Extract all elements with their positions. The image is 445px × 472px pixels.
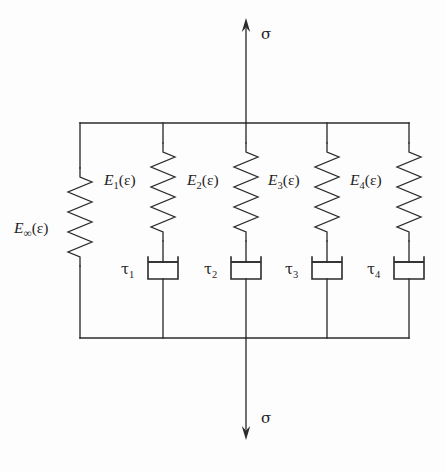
- branch-1-tau-subscript: 1: [129, 269, 134, 280]
- branch-1-strain-argument: (ε): [119, 171, 136, 189]
- modulus-base-symbol: E: [13, 219, 24, 236]
- branch-2-modulus-label: E2(ε): [186, 171, 219, 191]
- modulus-base-symbol: E: [267, 171, 278, 188]
- modulus-base-symbol: E: [349, 171, 360, 188]
- branch-infinity-spring: [68, 168, 92, 266]
- branch-infinity-modulus-subscript: ∞: [23, 227, 31, 239]
- modulus-base-symbol: E: [186, 171, 197, 188]
- branch-infinity-modulus-label: E∞(ε): [13, 219, 49, 239]
- branch-4: [394, 123, 424, 338]
- modulus-base-symbol: E: [103, 171, 114, 188]
- branch-1-modulus-label: E1(ε): [103, 171, 136, 191]
- branch-2-spring: [234, 143, 258, 241]
- branches-group: [68, 123, 424, 338]
- mechanical-model-diagram: E∞(ε)E1(ε)τ1E2(ε)τ2E3(ε)τ3E4(ε)τ4σσ: [0, 0, 445, 472]
- branch-4-spring: [397, 143, 421, 241]
- tau-base-symbol: τ: [121, 261, 129, 277]
- branch-1-spring: [151, 143, 175, 241]
- stress-label-bottom: σ: [261, 409, 271, 427]
- stress-label-top: σ: [261, 25, 271, 43]
- branch-3-strain-argument: (ε): [283, 171, 300, 189]
- branch-2-tau-label: τ2: [204, 261, 217, 280]
- stress-arrows-group: [242, 18, 250, 440]
- figure-canvas: E∞(ε)E1(ε)τ1E2(ε)τ2E3(ε)τ3E4(ε)τ4σσ: [0, 0, 445, 472]
- branch-infinity: [68, 123, 92, 338]
- branch-3-tau-subscript: 3: [293, 269, 298, 280]
- tau-base-symbol: τ: [204, 261, 212, 277]
- branch-4-tau-label: τ4: [367, 261, 381, 280]
- branch-4-strain-argument: (ε): [365, 171, 382, 189]
- branch-4-tau-subscript: 4: [375, 269, 381, 280]
- branch-2-tau-subscript: 2: [212, 269, 217, 280]
- labels-group: E∞(ε)E1(ε)τ1E2(ε)τ2E3(ε)τ3E4(ε)τ4σσ: [13, 25, 382, 427]
- branch-3-tau-label: τ3: [285, 261, 298, 280]
- branch-4-modulus-label: E4(ε): [349, 171, 382, 191]
- branch-infinity-strain-argument: (ε): [32, 219, 49, 237]
- branch-3: [312, 123, 342, 338]
- stress-arrow-bottom: [242, 338, 250, 440]
- branch-3-spring: [315, 143, 339, 241]
- branch-2-strain-argument: (ε): [202, 171, 219, 189]
- tau-base-symbol: τ: [367, 261, 375, 277]
- stress-arrow-top: [242, 18, 250, 123]
- network-frame: [80, 123, 409, 338]
- branch-1-tau-label: τ1: [121, 261, 134, 280]
- tau-base-symbol: τ: [285, 261, 293, 277]
- branch-1: [148, 123, 178, 338]
- branch-3-modulus-label: E3(ε): [267, 171, 300, 191]
- branch-2: [231, 123, 261, 338]
